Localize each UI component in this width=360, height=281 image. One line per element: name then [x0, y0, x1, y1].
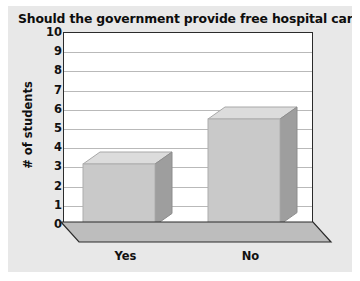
y-axis-tick-label: 3 — [36, 161, 62, 171]
chart-title: Should the government provide free hospi… — [18, 11, 348, 26]
y-axis-tick-label: 2 — [36, 181, 62, 191]
plot-area — [63, 32, 313, 224]
y-axis-tick-label: 8 — [36, 65, 62, 75]
bar-column — [208, 107, 297, 225]
bar-column — [83, 152, 172, 225]
chart-frame: Should the government provide free hospi… — [8, 6, 352, 272]
y-axis-ticks: 109876543210 — [34, 6, 62, 272]
y-axis-tick-label: 4 — [36, 142, 62, 152]
y-axis-title: # of students — [21, 69, 35, 181]
y-axis-tick-label: 7 — [36, 85, 62, 95]
y-axis-tick-label: 1 — [36, 200, 62, 210]
x-axis-tick-label: No — [211, 249, 291, 263]
y-axis-tick-label: 10 — [36, 27, 62, 37]
x-axis-tick-label: Yes — [86, 249, 166, 263]
gridline — [64, 91, 312, 92]
y-axis-tick-label: 0 — [36, 219, 62, 229]
gridline — [64, 71, 312, 72]
y-axis-tick-label: 9 — [36, 46, 62, 56]
gridline — [64, 52, 312, 53]
y-axis-tick-label: 6 — [36, 104, 62, 114]
y-axis-tick-label: 5 — [36, 123, 62, 133]
